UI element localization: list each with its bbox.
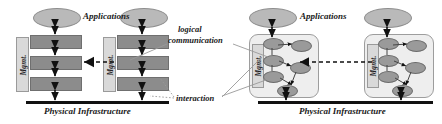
infrastructure-line-left (26, 101, 169, 104)
layer-bar-left-2-mid (117, 56, 169, 70)
logical-communication-label-line2: communication (168, 36, 223, 45)
infrastructure-label-right: Physical Infrastructure (299, 107, 386, 116)
interaction-label: interaction (176, 94, 214, 103)
node-right-2-a (378, 38, 399, 50)
layer-bar-left-2-top (117, 35, 169, 49)
layer-bar-left-2-bottom (117, 77, 169, 91)
mgmt-bar-left-1: Mgmt. (16, 37, 29, 92)
applications-ellipse-right-2 (364, 8, 412, 28)
node-right-2-d (405, 62, 426, 74)
mgmt-bar-right-2: Mgmt. (367, 44, 379, 88)
mgmt-label-left-1: Mgmt. (18, 54, 27, 75)
mgmt-label-right-1: Mgmt. (254, 55, 263, 76)
layer-bar-left-1-top (30, 35, 82, 49)
infrastructure-label-left: Physical Infrastructure (44, 107, 131, 116)
diagram-canvas: Applications Mgmt. Mgmt. Physical Infras… (0, 0, 442, 124)
node-right-1-f (277, 85, 298, 97)
applications-ellipse-left-1 (33, 8, 81, 28)
mgmt-label-left-2: Mgmt. (105, 54, 114, 75)
applications-label-left: Applications (83, 12, 130, 21)
logical-communication-label-line1: logical (178, 25, 202, 34)
layer-bar-left-1-bottom (30, 77, 82, 91)
node-right-2-c (378, 55, 399, 67)
applications-label-right: Applications (300, 12, 347, 21)
node-right-2-f (392, 85, 413, 97)
node-right-1-a (263, 38, 284, 50)
mgmt-label-right-2: Mgmt. (369, 55, 378, 76)
node-right-2-b (406, 40, 427, 52)
layer-bar-left-1-mid (30, 56, 82, 70)
infrastructure-line-right (258, 101, 433, 104)
applications-ellipse-right-1 (249, 8, 297, 28)
node-right-2-e (378, 71, 399, 83)
node-right-1-b (291, 40, 312, 52)
node-right-1-d (290, 62, 311, 74)
node-right-1-e (263, 71, 284, 83)
node-right-1-c (263, 55, 284, 67)
mgmt-bar-right-1: Mgmt. (252, 44, 264, 88)
mgmt-bar-left-2: Mgmt. (103, 37, 116, 92)
